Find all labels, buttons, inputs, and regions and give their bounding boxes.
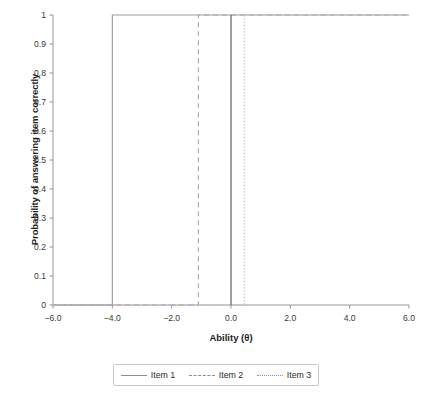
y-tick-label: 0.2: [16, 242, 46, 252]
legend-entry[interactable]: Item 2: [189, 370, 243, 380]
legend-label: Item 2: [219, 370, 243, 380]
legend-line-dashed-icon: [189, 375, 215, 376]
y-tick-label: 0.1: [16, 271, 46, 281]
y-tick-label: 0.5: [16, 155, 46, 165]
legend-line-solid-icon: [121, 375, 147, 376]
legend-label: Item 3: [287, 370, 311, 380]
x-tick-label: −2.0: [152, 313, 192, 323]
chart-legend: Item 1Item 2Item 3: [113, 364, 319, 386]
x-tick-label: −6.0: [33, 313, 73, 323]
x-tick-label: 4.0: [330, 313, 370, 323]
y-tick-label: 0.9: [16, 39, 46, 49]
legend-entry[interactable]: Item 3: [257, 370, 311, 380]
x-tick-label: 6.0: [389, 313, 427, 323]
x-axis-title: Ability (θ): [53, 332, 409, 343]
y-tick-label: 0.3: [16, 213, 46, 223]
y-tick-label: 0.8: [16, 68, 46, 78]
y-tick-label: 0.4: [16, 184, 46, 194]
y-tick-label: 1: [16, 10, 46, 20]
legend-entry[interactable]: Item 1: [121, 370, 175, 380]
y-tick-label: 0.7: [16, 97, 46, 107]
item-characteristic-curve-chart: Probability of answering item correctly …: [0, 0, 427, 399]
x-tick-label: 2.0: [270, 313, 310, 323]
y-tick-label: 0: [16, 300, 46, 310]
y-tick-label: 0.6: [16, 126, 46, 136]
x-tick-label: −4.0: [92, 313, 132, 323]
legend-label: Item 1: [151, 370, 175, 380]
legend-line-dotted-icon: [257, 375, 283, 376]
x-axis-tick-labels: −6.0−4.0−2.00.02.04.06.0: [0, 313, 427, 329]
y-axis-tick-labels: 00.10.20.30.40.50.60.70.80.91: [16, 0, 46, 399]
x-tick-label: 0.0: [211, 313, 251, 323]
